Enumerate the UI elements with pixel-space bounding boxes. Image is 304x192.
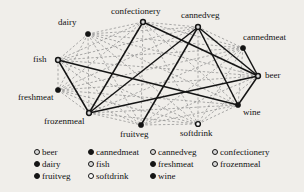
legend-marker-icon-frozenmeal: [212, 161, 218, 167]
node-marker-freshmeat[interactable]: [55, 87, 60, 92]
legend-label: wine: [158, 171, 176, 181]
node-label-frozenmeal: frozenmeal: [44, 117, 84, 126]
dashed-edge: [58, 34, 88, 60]
solid-edge: [141, 27, 198, 125]
node-marker-fish[interactable]: [56, 58, 61, 63]
legend-marker-icon-fish: [88, 161, 94, 167]
legend-marker-icon-dairy: [34, 161, 40, 167]
legend: beerdairyfruitvegcannedmeatfishsoftdrink…: [34, 146, 274, 188]
node-label-freshmeat: freshmeat: [18, 93, 53, 102]
legend-item-dairy[interactable]: dairy: [34, 158, 88, 170]
legend-marker-icon-wine: [150, 173, 156, 179]
node-label-softdrink: softdrink: [180, 129, 213, 138]
dashed-edge: [198, 48, 243, 124]
node-marker-fruitveg[interactable]: [138, 122, 143, 127]
legend-marker-icon-confectionery: [212, 149, 218, 155]
solid-edge: [198, 27, 238, 105]
legend-item-beer[interactable]: beer: [34, 146, 88, 158]
legend-item-frozenmeal[interactable]: frozenmeal: [212, 158, 284, 170]
node-marker-dairy[interactable]: [85, 31, 90, 36]
legend-marker-icon-cannedveg: [150, 149, 156, 155]
dashed-edge: [88, 34, 243, 48]
legend-item-fish[interactable]: fish: [88, 158, 150, 170]
dashed-edge: [88, 34, 198, 124]
legend-marker-icon-cannedmeat: [88, 149, 94, 155]
legend-label: confectionery: [220, 147, 269, 157]
legend-label: dairy: [42, 159, 61, 169]
solid-edge: [89, 22, 143, 113]
node-label-fish: fish: [33, 55, 47, 64]
legend-label: freshmeat: [158, 159, 193, 169]
legend-marker-icon-fruitveg: [34, 173, 40, 179]
node-marker-frozenmeal[interactable]: [87, 111, 92, 116]
legend-label: fish: [96, 159, 110, 169]
legend-item-cannedveg[interactable]: cannedveg: [150, 146, 212, 158]
node-marker-cannedveg[interactable]: [196, 25, 201, 30]
node-label-confectionery: confectionery: [111, 7, 160, 16]
dashed-edge: [89, 113, 141, 125]
dashed-edge: [89, 113, 198, 124]
legend-label: frozenmeal: [220, 159, 260, 169]
legend-label: beer: [42, 147, 58, 157]
node-label-beer: beer: [265, 71, 281, 80]
dashed-edge: [58, 22, 143, 60]
legend-marker-icon-freshmeat: [150, 161, 156, 167]
dashed-edge: [238, 48, 243, 105]
node-label-cannedmeat: cannedmeat: [243, 33, 286, 42]
node-label-fruitveg: fruitveg: [120, 130, 149, 139]
legend-item-wine[interactable]: wine: [150, 170, 212, 182]
legend-item-freshmeat[interactable]: freshmeat: [150, 158, 212, 170]
dashed-edge: [141, 124, 198, 125]
legend-label: cannedmeat: [96, 147, 139, 157]
node-marker-cannedmeat[interactable]: [240, 45, 245, 50]
legend-item-softdrink[interactable]: softdrink: [88, 170, 150, 182]
legend-item-fruitveg[interactable]: fruitveg: [34, 170, 88, 182]
node-label-wine: wine: [243, 108, 261, 117]
legend-label: softdrink: [96, 171, 129, 181]
dashed-edge: [89, 105, 238, 113]
legend-label: cannedveg: [158, 147, 196, 157]
dashed-edge: [58, 90, 89, 113]
dashed-edge-group: [58, 22, 258, 125]
legend-marker-icon-beer: [34, 149, 40, 155]
node-marker-confectionery[interactable]: [141, 20, 146, 25]
node-marker-wine[interactable]: [235, 102, 240, 107]
node-label-cannedveg: cannedveg: [181, 11, 219, 20]
legend-item-confectionery[interactable]: confectionery: [212, 146, 284, 158]
node-label-dairy: dairy: [58, 18, 77, 27]
node-marker-softdrink[interactable]: [196, 122, 201, 127]
legend-label: fruitveg: [42, 171, 71, 181]
node-marker-beer[interactable]: [256, 74, 261, 79]
legend-item-cannedmeat[interactable]: cannedmeat: [88, 146, 150, 158]
legend-marker-icon-softdrink: [88, 173, 94, 179]
dashed-edge: [141, 22, 143, 125]
